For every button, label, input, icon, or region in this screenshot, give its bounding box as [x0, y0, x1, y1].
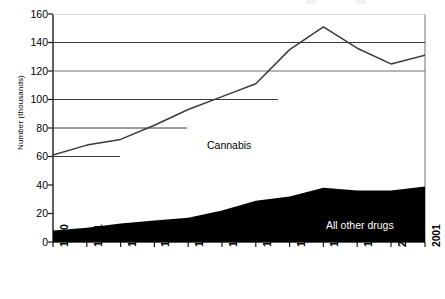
- series-label-all-other-drugs: All other drugs: [326, 219, 394, 231]
- x-tick-1991: 1991: [92, 224, 104, 247]
- x-tick-1997: 1997: [295, 224, 307, 247]
- x-tick-1993: 1993: [159, 224, 171, 247]
- chart-container: Number (thousands) 160 140 120 100 80 60…: [0, 0, 445, 299]
- x-tick-1992: 1992: [126, 224, 138, 247]
- x-tick-1994: 1994: [193, 224, 205, 247]
- x-tick-2000: 2000: [396, 224, 408, 247]
- series-label-cannabis: Cannabis: [207, 139, 251, 151]
- x-tick-2001: 2001: [430, 224, 442, 247]
- x-tick-1996: 1996: [261, 224, 273, 247]
- x-tick-1995: 1995: [227, 224, 239, 247]
- x-tick-1990: 1990: [58, 224, 70, 247]
